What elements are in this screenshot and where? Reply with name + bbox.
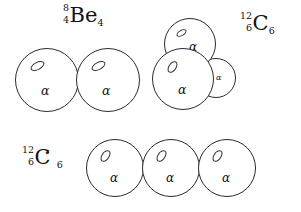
alpha-symbol: α (222, 172, 230, 184)
deuteron-ellipse-icon (175, 28, 188, 39)
deuteron-ellipse-icon (165, 59, 179, 74)
alpha-symbol: α (110, 172, 118, 184)
c12ex-atomic-number: 6 (22, 157, 34, 167)
c12-mass-number: 12 (240, 11, 252, 21)
c12-prescripts: 12 6 (240, 12, 252, 31)
be8-atomic-number: 4 (63, 15, 69, 25)
be8-prescripts: 8 4 (63, 4, 69, 23)
alpha-symbol: α (216, 74, 221, 82)
c12ex-prescripts: 12 6 (22, 146, 34, 165)
deuteron-ellipse-icon (98, 148, 112, 163)
alpha-particle: α (142, 139, 200, 197)
nuclide-label-c12-excited: 12 6 C⋆6 (22, 146, 63, 168)
c12ex-post-affixes: ⋆6 (51, 151, 63, 167)
alpha-particle: α (15, 48, 79, 112)
c12ex-mass-number: 12 (22, 145, 34, 155)
alpha-particle: α (198, 139, 256, 197)
c12-atomic-number: 6 (240, 23, 252, 33)
be8-mass-number: 8 (63, 3, 69, 13)
deuteron-ellipse-icon (90, 59, 107, 73)
alpha-symbol: α (102, 85, 110, 98)
alpha-symbol: α (41, 85, 49, 98)
nuclide-label-be8: 8 4 Be4 (63, 4, 103, 26)
be8-post-subscript: 4 (97, 17, 103, 28)
be8-element-symbol: Be (70, 3, 98, 27)
c12-element-symbol: C (253, 11, 269, 35)
deuteron-ellipse-icon (210, 148, 224, 163)
alpha-particle: α (76, 48, 140, 112)
alpha-particle: α (86, 139, 144, 197)
nuclear-cluster-figure: 8 4 Be4 α α 12 6 C6 α α (0, 0, 301, 212)
alpha-particle: α (152, 48, 214, 110)
c12ex-post-subscript: 6 (57, 159, 63, 170)
deuteron-ellipse-icon (29, 59, 46, 73)
alpha-symbol: α (166, 172, 174, 184)
c12ex-excited-marker: ⋆ (44, 147, 50, 158)
alpha-symbol: α (178, 84, 186, 97)
deuteron-ellipse-icon (154, 148, 168, 163)
nuclide-label-c12: 12 6 C6 (240, 12, 275, 34)
c12-post-subscript: 6 (269, 25, 275, 36)
